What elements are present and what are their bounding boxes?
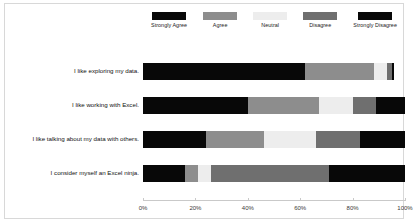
row-label: I like working with Excel.: [0, 101, 139, 109]
legend-item-neutral[interactable]: Neutral: [245, 12, 295, 29]
bar-segment[interactable]: [374, 63, 387, 80]
axis-tick-label: 20%: [189, 205, 201, 211]
bar-segment[interactable]: [360, 131, 405, 148]
legend-swatch-agree: [203, 12, 237, 20]
row-label: I consider myself an Excel ninja.: [0, 169, 139, 177]
legend-label-agree: Agree: [213, 22, 228, 29]
legend-item-strongly-disagree[interactable]: Strongly Disagree: [345, 12, 405, 29]
chart-row: I like talking about my data with others…: [5, 122, 413, 156]
bar-segment[interactable]: [143, 63, 305, 80]
bar-segment[interactable]: [143, 131, 206, 148]
axis-tick-label: 80%: [347, 205, 359, 211]
stacked-bar: [143, 131, 405, 148]
chart-frame: Strongly Agree Agree Neutral Disagree St…: [4, 3, 404, 219]
axis-tick: [195, 198, 196, 201]
chart-row: I consider myself an Excel ninja.: [5, 156, 413, 190]
bar-segment[interactable]: [143, 97, 248, 114]
x-axis-tick-labels: 0%20%40%60%80%100%: [143, 205, 405, 217]
bar-segment[interactable]: [206, 131, 264, 148]
axis-tick: [405, 198, 406, 201]
bar-segment[interactable]: [198, 165, 211, 182]
axis-tick: [300, 198, 301, 201]
legend-item-disagree[interactable]: Disagree: [295, 12, 345, 29]
legend-label-disagree: Disagree: [309, 22, 331, 29]
chart-legend: Strongly Agree Agree Neutral Disagree St…: [143, 12, 405, 38]
stacked-bar: [143, 63, 405, 80]
axis-tick-label: 60%: [294, 205, 306, 211]
row-label: I like talking about my data with others…: [0, 135, 139, 143]
legend-swatch-strongly-disagree: [358, 12, 392, 20]
bar-segment[interactable]: [319, 97, 353, 114]
legend-label-strongly-agree: Strongly Agree: [151, 22, 187, 29]
legend-item-agree[interactable]: Agree: [195, 12, 245, 29]
bar-segment[interactable]: [316, 131, 361, 148]
axis-tick-label: 0%: [139, 205, 148, 211]
bar-segment[interactable]: [264, 131, 316, 148]
axis-tick-label: 40%: [242, 205, 254, 211]
plot-area: I like exploring my data.I like working …: [5, 40, 413, 200]
bar-segment[interactable]: [376, 97, 405, 114]
bar-segment[interactable]: [143, 165, 185, 182]
legend-swatch-strongly-agree: [152, 12, 186, 20]
bar-segment[interactable]: [185, 165, 198, 182]
bar-segment[interactable]: [392, 63, 395, 80]
axis-tick: [143, 198, 144, 201]
row-label: I like exploring my data.: [0, 67, 139, 75]
axis-tick: [248, 198, 249, 201]
legend-swatch-disagree: [303, 12, 337, 20]
bar-segment[interactable]: [248, 97, 319, 114]
bar-segment[interactable]: [305, 63, 373, 80]
axis-tick: [353, 198, 354, 201]
bar-segment[interactable]: [329, 165, 405, 182]
legend-swatch-neutral: [253, 12, 287, 20]
legend-label-strongly-disagree: Strongly Disagree: [353, 22, 397, 29]
chart-row: I like working with Excel.: [5, 88, 413, 122]
chart-row: I like exploring my data.: [5, 54, 413, 88]
bar-segment[interactable]: [211, 165, 329, 182]
legend-label-neutral: Neutral: [261, 22, 279, 29]
x-axis: [143, 200, 405, 203]
stacked-bar: [143, 97, 405, 114]
stacked-bar: [143, 165, 405, 182]
legend-item-strongly-agree[interactable]: Strongly Agree: [143, 12, 195, 29]
axis-tick-label: 100%: [397, 205, 412, 211]
bar-segment[interactable]: [353, 97, 377, 114]
